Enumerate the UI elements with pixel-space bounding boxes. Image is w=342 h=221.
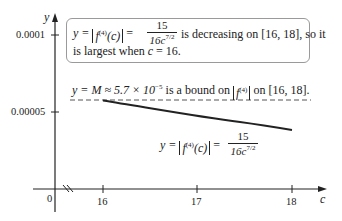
- x-tick-label-16: 16: [97, 197, 108, 208]
- function-curve: [103, 101, 292, 131]
- x-tick-label-18: 18: [286, 197, 297, 208]
- curve-label-fraction: 15 16c7/2: [228, 131, 258, 157]
- callout-line-2: is largest when c = 16.: [73, 45, 181, 57]
- callout-line-1-tail: is decreasing on [16, 18], so it: [181, 28, 326, 40]
- callout-fraction: 15 16c7/2: [147, 20, 177, 46]
- curve-label-lhs: y = f(4)(c) =: [160, 139, 220, 155]
- origin-label: 0: [47, 194, 52, 205]
- y-tick-label-0.0001: 0.0001: [16, 30, 45, 41]
- y-axis-arrow-icon: [52, 13, 58, 22]
- x-tick-label-17: 17: [191, 197, 202, 208]
- callout-line-1-lhs: y = f(4)(c) =: [73, 27, 133, 43]
- abs-bars: f(4)(c): [92, 29, 123, 43]
- x-axis-label: c: [320, 193, 325, 205]
- y-axis-label: y: [44, 11, 49, 23]
- bound-label: y = M ≈ 5.7 × 10−5 is a bound on f(4) on…: [72, 84, 309, 100]
- y-tick-label-0.00005: 0.00005: [11, 107, 45, 118]
